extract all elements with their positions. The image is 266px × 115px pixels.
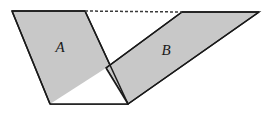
figure-canvas: A B <box>0 0 266 115</box>
geometry-figure: A B <box>0 0 266 115</box>
region-label-a: A <box>54 39 65 55</box>
region-label-b: B <box>161 42 170 58</box>
